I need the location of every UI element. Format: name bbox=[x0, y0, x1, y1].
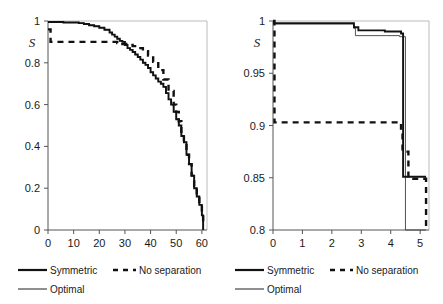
series-group-left bbox=[48, 22, 203, 230]
legend-item-optimal: Optimal bbox=[235, 284, 301, 295]
legend-label-no-separation: No separation bbox=[139, 265, 201, 276]
y-tick-label: 0.6 bbox=[25, 99, 40, 111]
x-tick-label: 2 bbox=[329, 237, 335, 249]
legend-item-no-separation: No separation bbox=[330, 265, 418, 276]
x-tick-label: 30 bbox=[119, 237, 131, 249]
legend-item-symmetric: Symmetric bbox=[235, 265, 314, 276]
curve-no-separation bbox=[48, 29, 203, 225]
legend-left: Symmetric No separation Optimal bbox=[0, 258, 221, 304]
curve-symmetric bbox=[273, 23, 426, 177]
x-tick-label: 20 bbox=[93, 237, 105, 249]
x-tick-label: 0 bbox=[270, 237, 276, 249]
y-tick-label: 0.95 bbox=[244, 67, 265, 79]
y-tick-label: 0.9 bbox=[250, 120, 265, 132]
plot-frame-left bbox=[48, 21, 207, 230]
panel-right: 0.80.850.90.951 012345 S Symmetric No se… bbox=[221, 0, 442, 304]
y-axis-title: S bbox=[29, 35, 36, 50]
x-axis-ticks-right: 012345 bbox=[270, 230, 423, 249]
legend-label-optimal: Optimal bbox=[50, 284, 84, 295]
x-tick-label: 5 bbox=[417, 237, 423, 249]
plot-frame-border bbox=[48, 21, 207, 230]
legend-label-no-separation: No separation bbox=[356, 265, 418, 276]
legend-item-no-separation: No separation bbox=[113, 265, 201, 276]
legend-right: Symmetric No separation Optimal bbox=[221, 258, 443, 304]
panel-left: 00.20.40.60.81 0102030405060 S Symmetric… bbox=[0, 0, 221, 304]
y-tick-label: 0.4 bbox=[25, 140, 40, 152]
y-tick-label: 1 bbox=[34, 15, 40, 27]
curve-symmetric bbox=[48, 22, 203, 230]
x-tick-label: 4 bbox=[388, 237, 394, 249]
x-tick-label: 3 bbox=[358, 237, 364, 249]
x-tick-label: 10 bbox=[68, 237, 80, 249]
x-tick-label: 40 bbox=[144, 237, 156, 249]
y-tick-label: 0.8 bbox=[25, 57, 40, 69]
x-tick-label: 0 bbox=[45, 237, 51, 249]
y-tick-label: 0.8 bbox=[250, 224, 265, 236]
legend-label-symmetric: Symmetric bbox=[267, 265, 314, 276]
y-tick-label: 1 bbox=[259, 15, 265, 27]
y-tick-label: 0.2 bbox=[25, 182, 40, 194]
legend-item-optimal: Optimal bbox=[18, 284, 84, 295]
x-tick-label: 50 bbox=[170, 237, 182, 249]
series-group-right bbox=[273, 21, 426, 230]
y-axis-title: S bbox=[254, 35, 261, 50]
legend-label-symmetric: Symmetric bbox=[50, 265, 97, 276]
y-tick-label: 0.85 bbox=[244, 172, 265, 184]
legend-item-symmetric: Symmetric bbox=[18, 265, 97, 276]
legend-label-optimal: Optimal bbox=[267, 284, 301, 295]
x-tick-label: 60 bbox=[196, 237, 208, 249]
x-tick-label: 1 bbox=[299, 237, 305, 249]
survival-curves-figure: 00.20.40.60.81 0102030405060 S Symmetric… bbox=[0, 0, 443, 304]
y-tick-label: 0 bbox=[34, 224, 40, 236]
x-axis-ticks-left: 0102030405060 bbox=[45, 230, 208, 249]
